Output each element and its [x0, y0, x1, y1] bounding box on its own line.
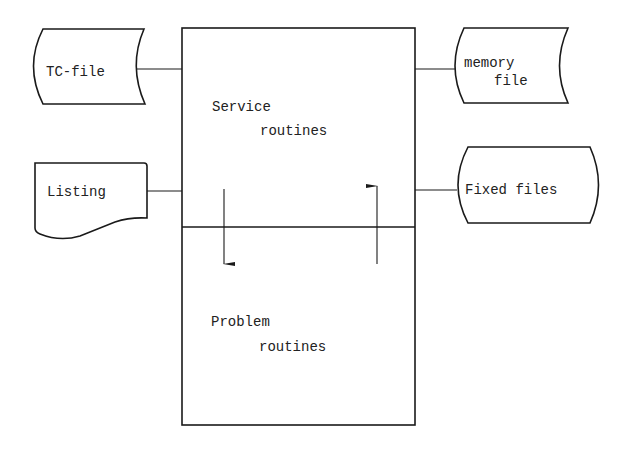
service-routines-section: Service routines [212, 99, 327, 139]
memory-file-label-line1: memory [464, 55, 514, 71]
node-listing: Listing [35, 163, 182, 239]
node-tc-file: TC-file [34, 29, 183, 104]
diagram-canvas: Service routines Problem routines TC-fil… [0, 0, 628, 456]
listing-label: Listing [47, 184, 106, 200]
service-label-line1: Service [212, 99, 271, 115]
problem-label-line1: Problem [211, 314, 270, 330]
node-fixed-files: Fixed files [415, 147, 599, 223]
problem-label-line2: routines [259, 339, 326, 355]
service-label-line2: routines [260, 123, 327, 139]
problem-routines-section: Problem routines [211, 314, 326, 355]
node-memory-file: memory file [415, 28, 568, 103]
memory-file-label-line2: file [494, 73, 528, 89]
main-box [182, 28, 415, 425]
document-shape [35, 163, 147, 239]
tc-file-label: TC-file [46, 64, 105, 80]
fixed-files-label: Fixed files [465, 182, 557, 198]
